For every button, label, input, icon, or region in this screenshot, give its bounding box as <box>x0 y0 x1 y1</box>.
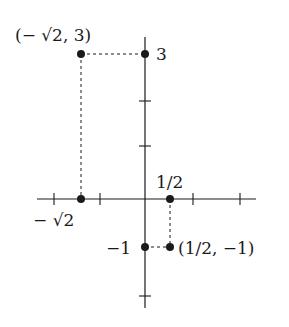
label-x-half: 1/2 <box>156 172 183 192</box>
plotted-points <box>77 50 174 251</box>
point-x-half <box>166 195 174 203</box>
point-half-neg1 <box>166 243 174 251</box>
point-neg-sqrt2-3 <box>77 50 85 58</box>
point-x-neg-sqrt2 <box>77 195 85 203</box>
point-y-3 <box>141 50 149 58</box>
label-y-three: 3 <box>156 44 167 64</box>
label-x-neg-sqrt2: − √2 <box>33 210 74 230</box>
dashed-guides <box>81 54 170 247</box>
coordinate-plane: (− √2, 3) 3 − √2 1/2 −1 (1/2, −1) <box>0 0 289 327</box>
label-top-left-point: (− √2, 3) <box>15 25 91 45</box>
label-y-neg-one: −1 <box>106 238 131 258</box>
point-y-neg1 <box>141 243 149 251</box>
label-bottom-right-point: (1/2, −1) <box>178 238 255 258</box>
